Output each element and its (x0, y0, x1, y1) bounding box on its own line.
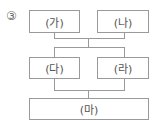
box-label: (나) (114, 14, 133, 30)
connector (88, 38, 89, 47)
box-label: (가) (45, 14, 64, 30)
connector (124, 47, 125, 57)
box-ga: (가) (29, 10, 80, 33)
box-na: (나) (97, 10, 149, 33)
connector (124, 79, 125, 90)
box-da: (다) (29, 57, 80, 79)
connector (54, 79, 55, 90)
box-label: (라) (114, 60, 133, 76)
box-label: (마) (80, 101, 99, 117)
box-label: (다) (45, 60, 64, 76)
option-number: ③ (6, 9, 17, 23)
connector (54, 38, 125, 39)
box-ma: (마) (29, 98, 149, 120)
connector (54, 47, 125, 48)
connector (54, 90, 125, 91)
connector (88, 90, 89, 98)
box-ra: (라) (97, 57, 149, 79)
connector (54, 47, 55, 57)
